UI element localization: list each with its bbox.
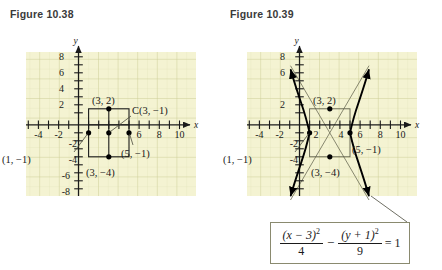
- label-point-1-n1: (1, −1): [223, 154, 252, 166]
- xlabel-10-38: x: [193, 120, 199, 130]
- numerator-x: (x − 3)2: [280, 228, 323, 242]
- xtick-n4: -4: [34, 129, 42, 140]
- minus-operator: −: [326, 235, 335, 251]
- ytick-8: 8: [59, 51, 64, 62]
- point-5-n1: [347, 130, 352, 135]
- ytick-8: 8: [280, 51, 285, 62]
- ytick-4: 4: [59, 83, 64, 94]
- equation-rhs: = 1: [385, 236, 401, 251]
- xtick-4: 4: [339, 129, 344, 140]
- xtick-10: 10: [396, 129, 406, 140]
- label-point-3-n4: (3, −4): [311, 167, 340, 179]
- xtick-n4: -4: [255, 129, 263, 140]
- label-point-1-n1: (1, −1): [2, 154, 31, 166]
- hyperbola-equation: (x − 3)2 4 − (y + 1)2 9 = 1: [280, 228, 401, 257]
- xtick-n2: -2: [275, 129, 283, 140]
- denominator-y: 9: [354, 245, 366, 258]
- fraction-x-term: (x − 3)2 4: [280, 228, 323, 257]
- label-point-3-n4: (3, −4): [86, 167, 115, 179]
- figure-pair-container: Figure 10.38: [0, 0, 442, 270]
- xtick-6: 6: [358, 129, 363, 140]
- ytick-2: 2: [280, 99, 285, 110]
- label-point-3-2: (3, 2): [92, 95, 115, 107]
- point-3-n4: [327, 154, 332, 159]
- xtick-2: 2: [314, 129, 319, 140]
- point-5-n1: [126, 130, 131, 135]
- xtick-10: 10: [175, 129, 185, 140]
- label-point-3-2: (3, 2): [313, 95, 336, 107]
- xtick-8: 8: [157, 129, 162, 140]
- xtick-n2: -2: [54, 129, 62, 140]
- ytick-n4: -4: [69, 154, 77, 165]
- point-3-2: [106, 106, 111, 111]
- exponent-x: 2: [316, 227, 320, 236]
- label-point-center: C(3, −1): [132, 105, 168, 117]
- numerator-y: (y + 1)2: [338, 228, 381, 242]
- ytick-6: 6: [59, 67, 64, 78]
- figure-panel-10-38: Figure 10.38: [0, 0, 221, 270]
- label-point-5-n1: (5, −1): [352, 144, 381, 156]
- ytick-n2: -2: [290, 138, 298, 149]
- ytick-n8: -8: [62, 186, 70, 197]
- ytick-2: 2: [59, 99, 64, 110]
- ytick-6: 6: [280, 67, 285, 78]
- ylabel-10-38: y: [73, 36, 79, 46]
- fraction-y-term: (y + 1)2 9: [338, 228, 381, 257]
- ylabel-10-39: y: [294, 36, 300, 46]
- point-3-n4: [106, 154, 111, 159]
- xlabel-10-39: x: [414, 120, 420, 130]
- ytick-n4: -4: [290, 154, 298, 165]
- denominator-x: 4: [295, 245, 307, 258]
- point-3-2: [327, 106, 332, 111]
- xtick-6: 6: [137, 129, 142, 140]
- ytick-n2: -2: [69, 138, 77, 149]
- label-point-5-n1: (5, −1): [121, 148, 150, 160]
- ytick-n6: -6: [62, 170, 70, 181]
- plot-10-38: y x 8 6 4 2 -2 -4 -6 -8 -4 -2 6 8 10 (3,…: [0, 0, 221, 270]
- equation-callout-box: (x − 3)2 4 − (y + 1)2 9 = 1: [270, 222, 410, 264]
- exponent-y: 2: [375, 227, 379, 236]
- xtick-8: 8: [378, 129, 383, 140]
- leader-eq: [371, 196, 407, 222]
